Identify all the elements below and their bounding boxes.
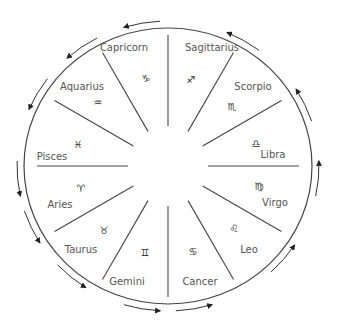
sign-name-label: Capricorn (100, 42, 148, 53)
zodiac-wheel: Capricorn♑Sagittarius♐Scorpio♏Libra♎Virg… (0, 0, 338, 329)
sign-name-label: Aquarius (60, 81, 104, 92)
sign-virgo: Virgo♍ (255, 181, 288, 208)
sign-name-label: Virgo (262, 197, 288, 208)
rotation-arrow-icon (24, 211, 40, 243)
sagittarius-symbol-icon: ♐ (187, 74, 196, 85)
rotation-arrow-icon (296, 89, 312, 121)
sign-name-label: Scorpio (234, 81, 271, 92)
sign-aries: Aries♈ (47, 183, 85, 210)
sign-divider-line (203, 186, 282, 232)
taurus-symbol-icon: ♉ (100, 225, 109, 236)
pisces-symbol-icon: ♓ (74, 139, 83, 150)
rotation-arrow-icon (316, 161, 319, 196)
sign-cancer: Cancer♋ (182, 246, 218, 287)
rotation-arrow-icon (17, 161, 20, 196)
sign-name-label: Aries (47, 199, 72, 210)
sign-taurus: Taurus♉ (64, 225, 109, 255)
sign-divider-line (203, 101, 282, 147)
virgo-symbol-icon: ♍ (255, 181, 264, 192)
gemini-symbol-icon: ♊ (141, 247, 150, 258)
sign-name-label: Taurus (64, 244, 98, 255)
rotation-arrow-icon (124, 305, 160, 311)
sign-name-label: Gemini (109, 276, 145, 287)
aquarius-symbol-icon: ♒ (94, 97, 103, 108)
rotation-arrow-icon (176, 305, 212, 311)
scorpio-symbol-icon: ♏ (228, 101, 237, 112)
cancer-symbol-icon: ♋ (189, 246, 198, 257)
sign-leo: Leo♌ (230, 223, 258, 255)
sign-labels: Capricorn♑Sagittarius♐Scorpio♏Libra♎Virg… (37, 42, 288, 287)
sign-scorpio: Scorpio♏ (228, 81, 272, 112)
sign-name-label: Libra (261, 149, 286, 160)
sign-name-label: Pisces (37, 151, 68, 162)
leo-symbol-icon: ♌ (230, 223, 239, 234)
sign-name-label: Sagittarius (185, 42, 239, 53)
capricorn-symbol-icon: ♑ (142, 73, 151, 84)
sign-capricorn: Capricorn♑ (100, 42, 151, 84)
sign-sagittarius: Sagittarius♐ (185, 42, 239, 85)
sign-libra: Libra♎ (252, 138, 286, 160)
sign-divider-line (103, 201, 149, 280)
sign-name-label: Leo (240, 244, 258, 255)
sign-pisces: Pisces♓ (37, 139, 83, 162)
libra-symbol-icon: ♎ (252, 138, 261, 149)
aries-symbol-icon: ♈ (77, 183, 86, 194)
sign-divider-line (103, 53, 149, 132)
sign-divider-line (188, 53, 234, 132)
sign-dividers (37, 35, 299, 297)
sign-name-label: Cancer (182, 276, 218, 287)
rotation-arrow-icon (124, 21, 160, 27)
sign-divider-line (188, 201, 234, 280)
sign-aquarius: Aquarius♒ (60, 81, 104, 108)
sign-gemini: Gemini♊ (109, 247, 149, 287)
